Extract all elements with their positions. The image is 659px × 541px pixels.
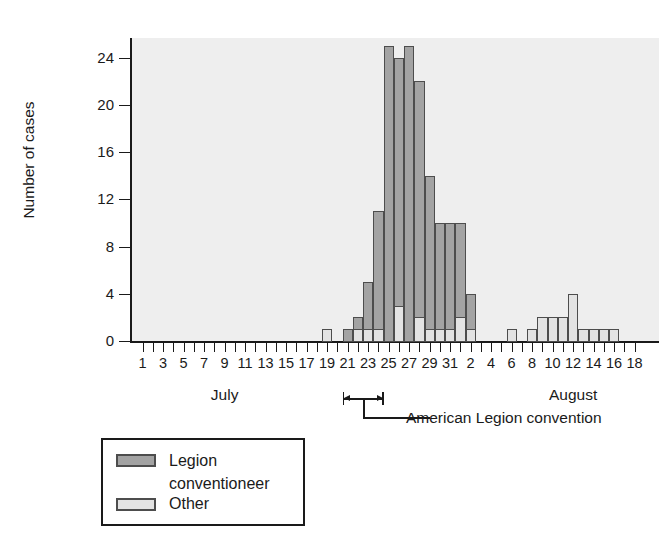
y-axis-tick-label: 8 bbox=[0, 239, 114, 254]
x-axis-tick bbox=[348, 343, 349, 352]
x-axis-tick-label: 9 bbox=[221, 355, 229, 371]
x-axis-tick-label: 27 bbox=[401, 355, 417, 371]
x-axis-tick bbox=[522, 343, 523, 352]
bar-segment-other bbox=[599, 329, 609, 342]
x-axis-tick bbox=[635, 343, 636, 352]
x-axis-month-label: July bbox=[211, 386, 239, 404]
x-axis-tick-label: 15 bbox=[278, 355, 294, 371]
legend-swatch-other bbox=[116, 498, 156, 511]
x-axis-tick bbox=[512, 343, 513, 352]
x-axis-tick bbox=[553, 343, 554, 352]
bar-segment-legion bbox=[363, 282, 373, 330]
x-axis-tick bbox=[563, 343, 564, 352]
x-axis-tick-label: 7 bbox=[200, 355, 208, 371]
x-axis-tick bbox=[614, 343, 615, 352]
x-axis-tick bbox=[460, 343, 461, 352]
x-axis-tick bbox=[184, 343, 185, 352]
bar-segment-other bbox=[425, 329, 435, 342]
bar-segment-other bbox=[394, 306, 404, 342]
x-axis-tick-label: 11 bbox=[238, 355, 253, 371]
x-axis-tick-label: 10 bbox=[545, 355, 561, 371]
x-axis-tick-label: 12 bbox=[565, 355, 581, 371]
bar-segment-other bbox=[589, 329, 599, 342]
x-axis-tick bbox=[307, 343, 308, 352]
x-axis-tick bbox=[163, 343, 164, 352]
x-axis-tick bbox=[450, 343, 451, 352]
x-axis-tick bbox=[604, 343, 605, 352]
bracket-arrow-right-icon bbox=[377, 395, 383, 401]
y-axis-tick-label: 4 bbox=[0, 286, 114, 301]
x-axis-tick bbox=[358, 343, 359, 352]
x-axis-tick bbox=[296, 343, 297, 352]
x-axis-tick-label: 29 bbox=[422, 355, 438, 371]
x-axis-tick-label: 6 bbox=[508, 355, 516, 371]
epidemic-curve-figure: 04812162024 Number of cases 135791113151… bbox=[0, 0, 659, 541]
bar-segment-other bbox=[373, 329, 383, 342]
x-axis-tick bbox=[419, 343, 420, 352]
x-axis-tick-label: 16 bbox=[606, 355, 622, 371]
x-axis-tick bbox=[573, 343, 574, 352]
x-axis-tick bbox=[409, 343, 410, 352]
x-axis-tick-label: 25 bbox=[381, 355, 397, 371]
y-axis-tick bbox=[119, 199, 130, 200]
bar-segment-other bbox=[558, 317, 568, 342]
convention-annotation-label: American Legion convention bbox=[406, 408, 602, 428]
y-axis-tick-label-text: 8 bbox=[0, 239, 114, 254]
y-axis-tick-label-text: 20 bbox=[0, 97, 114, 112]
y-axis-tick-label-text: 4 bbox=[0, 286, 114, 301]
x-axis-tick bbox=[317, 343, 318, 352]
x-axis-tick-label: 1 bbox=[139, 355, 147, 371]
x-axis-tick bbox=[276, 343, 277, 352]
bar-segment-other bbox=[466, 329, 476, 342]
x-axis-tick bbox=[327, 343, 328, 352]
x-axis-tick bbox=[143, 343, 144, 352]
bar-segment-other bbox=[527, 329, 537, 342]
bracket-leader-stem bbox=[363, 398, 365, 418]
x-axis-tick bbox=[266, 343, 267, 352]
y-axis-tick-label-text: 12 bbox=[0, 191, 114, 206]
legend-label-other: Other bbox=[169, 494, 209, 513]
y-axis-tick-label-text: 24 bbox=[0, 50, 114, 65]
x-axis-tick bbox=[245, 343, 246, 352]
bar-segment-other bbox=[435, 329, 445, 342]
y-axis-line bbox=[130, 38, 132, 342]
x-axis-tick-label: 21 bbox=[340, 355, 356, 371]
x-axis-tick-label: 2 bbox=[467, 355, 475, 371]
y-axis-title: Number of cases bbox=[19, 65, 39, 255]
y-axis-tick-label: 12 bbox=[0, 191, 114, 206]
x-axis-tick-label: 14 bbox=[586, 355, 602, 371]
y-axis-tick bbox=[119, 341, 130, 342]
x-axis-tick bbox=[471, 343, 472, 352]
bar-segment-legion bbox=[373, 211, 383, 330]
bar-segment-other bbox=[578, 329, 588, 342]
x-axis-tick bbox=[501, 343, 502, 352]
bar-segment-legion bbox=[414, 81, 424, 318]
x-axis-tick bbox=[542, 343, 543, 352]
x-axis-tick bbox=[378, 343, 379, 352]
x-axis-tick-label: 19 bbox=[319, 355, 335, 371]
x-axis-tick bbox=[368, 343, 369, 352]
y-axis-tick bbox=[119, 294, 130, 295]
bar-segment-other bbox=[548, 317, 558, 342]
y-axis-tick-label-text: 0 bbox=[0, 333, 114, 348]
bar-segment-other bbox=[322, 329, 332, 342]
x-axis-tick-label: 31 bbox=[442, 355, 458, 371]
bar-segment-legion bbox=[343, 329, 353, 342]
x-axis-tick bbox=[532, 343, 533, 352]
x-axis-tick-label: 13 bbox=[258, 355, 274, 371]
x-axis-tick-label: 23 bbox=[360, 355, 376, 371]
x-axis-tick-label: 5 bbox=[180, 355, 188, 371]
bar-segment-other bbox=[609, 329, 619, 342]
y-axis-tick bbox=[119, 105, 130, 106]
x-axis-tick bbox=[173, 343, 174, 352]
legend-box: Legion conventioneer Other bbox=[101, 438, 305, 526]
x-axis-tick bbox=[286, 343, 287, 352]
x-axis-tick bbox=[225, 343, 226, 352]
x-axis-month-label: August bbox=[549, 386, 597, 404]
x-axis-tick bbox=[204, 343, 205, 352]
x-axis-tick bbox=[389, 343, 390, 352]
x-axis-tick-label: 4 bbox=[487, 355, 495, 371]
x-axis-tick-label: 17 bbox=[299, 355, 315, 371]
bar-segment-legion bbox=[384, 46, 394, 342]
x-axis-tick bbox=[153, 343, 154, 352]
